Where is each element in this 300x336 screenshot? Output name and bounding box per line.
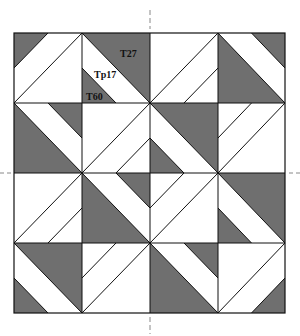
- quilt-cell-r2-c1: [82, 173, 150, 243]
- quilt-diagram: T27Tp17T60: [0, 0, 300, 336]
- piece-label-tp17: Tp17: [94, 69, 116, 80]
- quilt-cell-r2-c0: [14, 173, 82, 243]
- quilt-cell-r2-c2: [150, 173, 218, 243]
- quilt-cell-r0-c3: [218, 33, 285, 103]
- piece-label-t60: T60: [86, 91, 103, 102]
- quilt-cell-r1-c2: [150, 103, 218, 173]
- quilt-cell-r1-c0: [14, 103, 82, 173]
- quilt-cell-r1-c3: [218, 103, 285, 173]
- quilt-cell-r3-c1: [82, 243, 150, 313]
- quilt-cell-r3-c3: [218, 243, 285, 313]
- quilt-cell-r0-c0: [14, 33, 82, 103]
- quilt-cell-r1-c1: [82, 103, 150, 173]
- piece-label-t27: T27: [120, 48, 137, 59]
- quilt-cell-r0-c2: [150, 33, 218, 103]
- quilt-cell-r3-c0: [14, 243, 82, 313]
- quilt-cell-r2-c3: [218, 173, 285, 243]
- quilt-cell-r3-c2: [150, 243, 218, 313]
